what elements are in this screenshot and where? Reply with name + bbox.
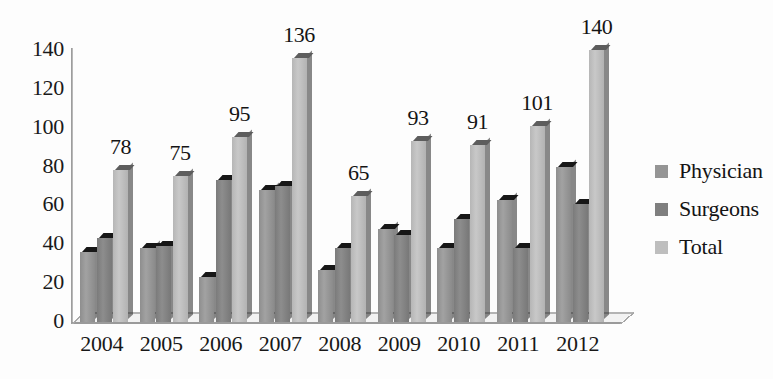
bar-physician-2010 bbox=[437, 248, 452, 322]
bar-surgeons-2010 bbox=[454, 219, 469, 322]
bar-total-2012 bbox=[589, 50, 604, 322]
bar-surgeons-2012 bbox=[573, 204, 588, 323]
bar-surgeons-2008 bbox=[335, 248, 350, 322]
bar-front-face bbox=[454, 219, 469, 322]
bar-front-face bbox=[140, 248, 155, 322]
chart-legend: PhysicianSurgeonsTotal bbox=[655, 152, 773, 266]
bar-total-2010 bbox=[470, 145, 485, 322]
bar-front-face bbox=[530, 126, 545, 322]
bar-total-2008 bbox=[351, 196, 366, 322]
legend-swatch-icon bbox=[655, 241, 668, 254]
bar-physician-2012 bbox=[556, 167, 571, 322]
bar-physician-2004 bbox=[80, 252, 95, 322]
bar-side-face bbox=[604, 42, 609, 319]
legend-label: Physician bbox=[679, 160, 763, 182]
x-axis-tick-2011: 2011 bbox=[485, 332, 551, 356]
x-axis-tick-2007: 2007 bbox=[247, 332, 313, 356]
bar-side-face bbox=[426, 134, 431, 319]
bar-surgeons-2004 bbox=[97, 238, 112, 322]
bar-physician-2007 bbox=[259, 190, 274, 322]
y-axis-tick-label: 40 bbox=[18, 232, 64, 254]
bar-physician-2005 bbox=[140, 248, 155, 322]
data-label-total-2008: 65 bbox=[329, 162, 389, 184]
legend-item-surgeons[interactable]: Surgeons bbox=[655, 190, 773, 228]
y-axis-tick-label: 0 bbox=[18, 310, 64, 332]
bar-front-face bbox=[411, 141, 426, 322]
bar-side-face bbox=[188, 169, 193, 319]
x-axis-tick-2006: 2006 bbox=[188, 332, 254, 356]
bar-surgeons-2009 bbox=[394, 235, 409, 322]
bar-total-2005 bbox=[173, 176, 188, 322]
bar-side-face bbox=[247, 130, 252, 319]
bar-front-face bbox=[394, 235, 409, 322]
bar-front-face bbox=[97, 238, 112, 322]
y-axis-tick-label: 140 bbox=[18, 38, 64, 60]
legend-item-total[interactable]: Total bbox=[655, 228, 773, 266]
x-axis-tick-2008: 2008 bbox=[307, 332, 373, 356]
bar-front-face bbox=[113, 170, 128, 322]
bar-physician-2006 bbox=[199, 277, 214, 322]
bar-side-face bbox=[366, 188, 371, 319]
bar-total-2004 bbox=[113, 170, 128, 322]
bar-front-face bbox=[513, 248, 528, 322]
bar-front-face bbox=[556, 167, 571, 322]
x-axis-line bbox=[72, 322, 622, 324]
bar-front-face bbox=[378, 229, 393, 322]
data-label-total-2010: 91 bbox=[448, 111, 508, 133]
bar-side-face bbox=[128, 163, 133, 319]
bar-surgeons-2007 bbox=[275, 186, 290, 322]
bar-surgeons-2011 bbox=[513, 248, 528, 322]
plot-area: 140120100806040200 787595136659391101140… bbox=[0, 0, 640, 379]
bar-side-face bbox=[485, 138, 490, 319]
data-label-total-2007: 136 bbox=[269, 24, 329, 46]
bar-side-face bbox=[545, 118, 550, 319]
bar-surgeons-2006 bbox=[216, 180, 231, 322]
bar-chart: 140120100806040200 787595136659391101140… bbox=[0, 0, 773, 379]
legend-item-physician[interactable]: Physician bbox=[655, 152, 773, 190]
bar-front-face bbox=[497, 200, 512, 322]
bar-surgeons-2005 bbox=[156, 246, 171, 322]
bar-front-face bbox=[173, 176, 188, 322]
bar-physician-2009 bbox=[378, 229, 393, 322]
bar-front-face bbox=[199, 277, 214, 322]
x-axis-tick-2010: 2010 bbox=[426, 332, 492, 356]
legend-swatch-icon bbox=[655, 165, 668, 178]
bar-front-face bbox=[335, 248, 350, 322]
bar-front-face bbox=[232, 137, 247, 322]
bar-total-2009 bbox=[411, 141, 426, 322]
bar-front-face bbox=[80, 252, 95, 322]
bar-front-face bbox=[589, 50, 604, 322]
bar-front-face bbox=[216, 180, 231, 322]
bar-front-face bbox=[156, 246, 171, 322]
bar-front-face bbox=[275, 186, 290, 322]
y-axis-tick-label: 120 bbox=[18, 77, 64, 99]
x-axis-tick-2012: 2012 bbox=[545, 332, 611, 356]
data-label-total-2006: 95 bbox=[210, 103, 270, 125]
bar-physician-2008 bbox=[318, 270, 333, 322]
bar-total-2007 bbox=[292, 58, 307, 322]
bar-physician-2011 bbox=[497, 200, 512, 322]
bar-front-face bbox=[351, 196, 366, 322]
data-label-total-2011: 101 bbox=[507, 92, 567, 114]
bar-front-face bbox=[292, 58, 307, 322]
x-axis-tick-2005: 2005 bbox=[128, 332, 194, 356]
x-axis-tick-2004: 2004 bbox=[69, 332, 135, 356]
y-axis-tick-label: 20 bbox=[18, 271, 64, 293]
y-axis-line bbox=[71, 48, 73, 324]
data-label-total-2012: 140 bbox=[567, 16, 627, 38]
bar-front-face bbox=[470, 145, 485, 322]
x-axis-tick-2009: 2009 bbox=[366, 332, 432, 356]
bar-front-face bbox=[259, 190, 274, 322]
floor-right-edge bbox=[620, 312, 634, 324]
y-axis-tick-label: 100 bbox=[18, 116, 64, 138]
bar-front-face bbox=[437, 248, 452, 322]
legend-swatch-icon bbox=[655, 203, 668, 216]
y-axis-tick-label: 60 bbox=[18, 193, 64, 215]
legend-label: Total bbox=[679, 236, 723, 258]
bar-front-face bbox=[573, 204, 588, 323]
y-axis-tick-label: 80 bbox=[18, 155, 64, 177]
bar-total-2006 bbox=[232, 137, 247, 322]
legend-label: Surgeons bbox=[679, 198, 759, 220]
data-label-total-2005: 75 bbox=[150, 142, 210, 164]
bar-total-2011 bbox=[530, 126, 545, 322]
